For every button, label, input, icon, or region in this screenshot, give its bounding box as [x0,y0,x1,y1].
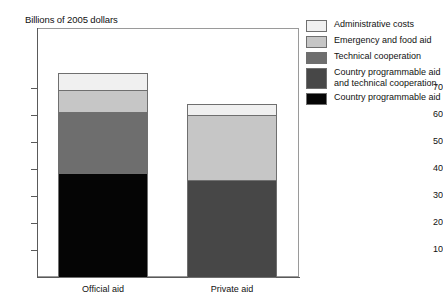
legend-label: Administrative costs [334,19,414,30]
legend-label: Country programmable aid and technical c… [334,67,441,88]
y-axis-title: Billions of 2005 dollars [25,14,118,25]
legend-item: Administrative costs [306,19,441,32]
legend-label: Emergency and food aid [334,35,432,46]
x-axis-label: Private aid [187,284,277,294]
x-axis-label: Official aid [58,284,148,294]
y-tick-mark [31,250,38,251]
y-tick-label: 10 [417,244,443,254]
legend-label: Country programmable aid [334,92,441,103]
y-tick-label: 60 [417,109,443,119]
y-tick-label: 20 [417,217,443,227]
chart-legend: Administrative costsEmergency and food a… [306,19,441,108]
legend-swatch [306,36,327,48]
legend-item: Country programmable aid and technical c… [306,67,441,89]
legend-label: Technical cooperation [334,51,421,62]
legend-item: Emergency and food aid [306,35,441,48]
legend-swatch [306,68,327,89]
y-tick-label: 50 [417,136,443,146]
x-axis-line [37,277,300,278]
y-tick-label: 40 [417,163,443,173]
y-tick-mark [31,196,38,197]
y-tick-label: 30 [417,190,443,200]
y-tick-mark [31,115,38,116]
y-tick-mark [31,223,38,224]
y-tick-mark [31,88,38,89]
y-tick-mark [31,142,38,143]
plot-frame [37,28,299,277]
legend-item: Technical cooperation [306,51,441,64]
legend-swatch [306,93,327,105]
legend-swatch [306,52,327,64]
legend-swatch [306,20,327,32]
y-axis-line [37,28,38,278]
legend-item: Country programmable aid [306,92,441,105]
y-tick-mark [31,169,38,170]
